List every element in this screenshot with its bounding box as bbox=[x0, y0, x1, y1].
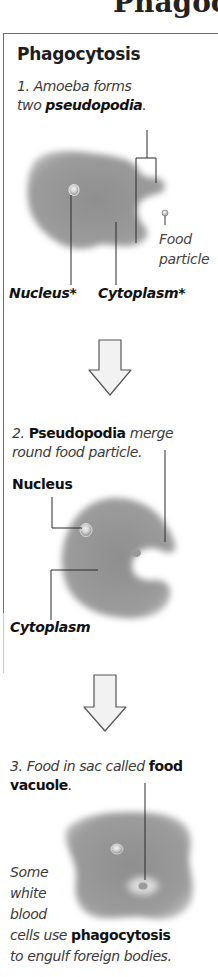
label-nucleus-1: Nucleus* bbox=[9, 285, 77, 301]
term-phagocytosis: phagocytosis bbox=[71, 927, 170, 943]
caption-text: round food particle. bbox=[12, 443, 173, 462]
down-arrow-icon-2 bbox=[84, 675, 126, 731]
label-cytoplasm-2: Cytoplasm bbox=[10, 619, 90, 635]
note-text: blood bbox=[10, 904, 172, 925]
caption-text: merge bbox=[126, 425, 174, 441]
caption-text: . bbox=[68, 777, 72, 793]
step-3-caption: 3. Food in sac called food vacuole. bbox=[10, 757, 183, 795]
note-text: cells use bbox=[10, 927, 71, 943]
term-food-vacuole: vacuole bbox=[10, 777, 68, 793]
note-white-blood-cells: Some white blood cells use phagocytosis … bbox=[10, 862, 172, 967]
caption-text: Food in sac called bbox=[27, 758, 149, 774]
label-nucleus-2: Nucleus bbox=[12, 476, 72, 492]
nucleus-1 bbox=[69, 185, 79, 196]
step-2-caption: 2. Pseudopodia merge round food particle… bbox=[12, 424, 173, 462]
step-number: 2. bbox=[12, 425, 25, 441]
term-pseudopodia: Pseudopodia bbox=[29, 425, 126, 441]
note-text: to engulf foreign bodies. bbox=[10, 946, 172, 967]
label-particle: particle bbox=[159, 249, 209, 269]
label-food-particle: Food particle bbox=[159, 229, 209, 269]
term-food-vacuole: food bbox=[149, 758, 183, 774]
note-text: Some bbox=[10, 862, 172, 883]
label-food: Food bbox=[159, 229, 209, 249]
label-cytoplasm-1: Cytoplasm* bbox=[98, 285, 185, 301]
step-number: 3. bbox=[10, 758, 23, 774]
note-text: white bbox=[10, 883, 172, 904]
down-arrow-icon-1 bbox=[89, 340, 131, 395]
